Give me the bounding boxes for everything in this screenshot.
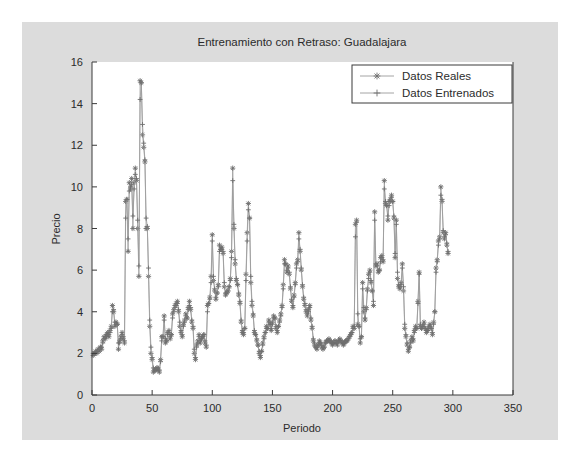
chart-title: Entrenamiento con Retraso: Guadalajara: [197, 36, 407, 48]
x-tick-label-150: 150: [263, 402, 281, 414]
y-tick-label-14: 14: [71, 98, 83, 110]
y-tick-label-8: 8: [77, 223, 83, 235]
y-tick-label-4: 4: [77, 306, 83, 318]
y-tick-label-6: 6: [77, 264, 83, 276]
star-icon: [374, 73, 381, 80]
y-axis-title: Precio: [50, 213, 62, 244]
x-tick-label-0: 0: [89, 402, 95, 414]
legend-label-1: Datos Entrenados: [402, 87, 494, 99]
x-tick-label-50: 50: [146, 402, 158, 414]
x-axis-title: Periodo: [283, 422, 321, 434]
legend-marker-star-icon: [374, 73, 381, 80]
y-tick-label-0: 0: [77, 389, 83, 401]
y-tick-label-12: 12: [71, 139, 83, 151]
x-tick-label-350: 350: [504, 402, 522, 414]
y-tick-label-16: 16: [71, 56, 83, 68]
x-tick-label-300: 300: [444, 402, 462, 414]
chart-canvas: 050100150200250300350 0246810121416 Entr…: [0, 0, 582, 461]
x-tick-label-200: 200: [323, 402, 341, 414]
legend[interactable]: Datos Reales Datos Entrenados: [352, 65, 512, 103]
y-tick-label-2: 2: [77, 347, 83, 359]
y-tick-label-10: 10: [71, 181, 83, 193]
legend-label-0: Datos Reales: [402, 70, 471, 82]
plot-area-background: [92, 62, 513, 395]
x-tick-label-100: 100: [203, 402, 221, 414]
x-tick-label-250: 250: [384, 402, 402, 414]
